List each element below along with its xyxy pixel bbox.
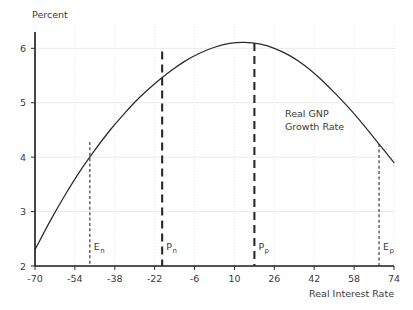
x-tick-label: 10	[228, 273, 240, 284]
x-tick-label: 42	[308, 273, 320, 284]
marker-label-Ep: Ep	[383, 241, 395, 255]
chart-canvas: 23456 -70-54-38-22-61026425874 EnPnPpEp …	[0, 0, 413, 310]
x-axis-ticks: -70-54-38-22-61026425874	[27, 266, 400, 284]
marker-subscript-En: n	[100, 247, 104, 255]
vertical-gridlines	[35, 24, 394, 266]
chart-figure: 23456 -70-54-38-22-61026425874 EnPnPpEp …	[0, 0, 413, 310]
marker-subscript-Pn: n	[172, 247, 176, 255]
x-tick-label: -70	[27, 273, 43, 284]
y-tick-label: 5	[20, 97, 26, 108]
y-tick-label: 3	[20, 206, 26, 217]
marker-label-Pn: Pn	[166, 241, 177, 255]
y-tick-label: 4	[20, 152, 26, 163]
series-annotation-line1: Real GNP	[285, 108, 329, 119]
x-tick-label: -54	[67, 273, 83, 284]
x-tick-label: 74	[388, 273, 400, 284]
marker-subscript-Ep: p	[390, 247, 395, 255]
y-tick-label: 2	[20, 261, 26, 272]
marker-lines: EnPnPpEp	[90, 43, 395, 266]
x-tick-label: 58	[348, 273, 360, 284]
marker-label-En: En	[94, 241, 105, 255]
x-axis-title: Real Interest Rate	[309, 288, 394, 299]
real-gnp-growth-curve	[35, 42, 394, 249]
marker-label-Pp: Pp	[258, 241, 269, 255]
x-tick-label: -22	[147, 273, 163, 284]
y-tick-label: 6	[20, 43, 26, 54]
x-tick-label: 26	[268, 273, 280, 284]
series-annotation-line2: Growth Rate	[285, 121, 344, 132]
y-axis-ticks: 23456	[20, 43, 35, 272]
marker-subscript-Pp: p	[265, 247, 270, 255]
y-axis-title: Percent	[32, 9, 68, 20]
x-tick-label: -6	[190, 273, 199, 284]
x-tick-label: -38	[107, 273, 123, 284]
